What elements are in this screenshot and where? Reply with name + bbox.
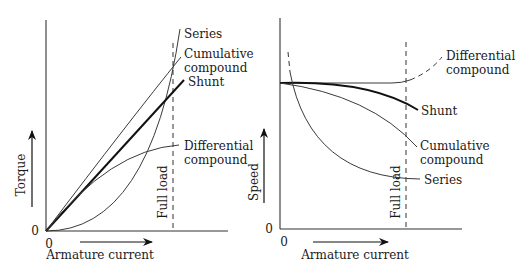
torque-cumulative-label-2: compound (184, 61, 248, 75)
torque-chart: 0 0 Armature current Torque Full load Se… (14, 20, 254, 262)
speed-differential-label-2: compound (446, 63, 510, 77)
torque-full-load-label: Full load (156, 165, 170, 219)
speed-differential-label-1: Differential (446, 49, 515, 63)
speed-full-load-label: Full load (389, 165, 403, 219)
speed-x-label: Armature current (300, 248, 409, 262)
speed-cumulative-label-1: Cumulative (420, 139, 490, 153)
speed-cumulative-label-2: compound (420, 153, 484, 167)
torque-y-label: Torque (14, 154, 28, 197)
torque-cumulative-label-1: Cumulative (184, 47, 254, 61)
speed-y-label: Speed (247, 163, 261, 201)
torque-shunt-label: Shunt (188, 75, 224, 89)
speed-series-dashed (288, 52, 290, 72)
torque-x-label: Armature current (45, 248, 154, 262)
torque-y-origin: 0 (31, 224, 39, 238)
speed-cumulative-compound-curve (280, 83, 417, 147)
torque-differential-label-1: Differential (184, 139, 253, 153)
speed-shunt-label: Shunt (421, 104, 457, 118)
speed-x-origin: 0 (280, 235, 288, 249)
speed-series-label: Series (424, 173, 462, 187)
speed-y-origin: 0 (265, 222, 273, 236)
speed-differential-compound-dashed (410, 57, 442, 80)
speed-chart: 0 0 Armature current Speed Full load Dif… (247, 18, 515, 262)
dc-motor-characteristics-diagram: 0 0 Armature current Torque Full load Se… (0, 0, 518, 273)
torque-differential-label-2: compound (184, 153, 248, 167)
torque-series-label: Series (184, 27, 222, 41)
